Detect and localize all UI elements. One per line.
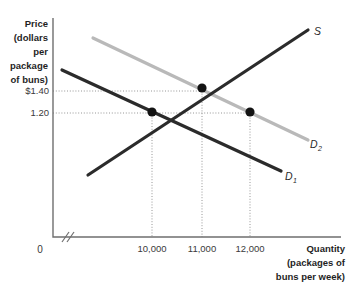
y-axis-title-line-2: (dollars	[14, 32, 48, 43]
chart-axes	[53, 18, 341, 237]
chart-svg: $1.40 1.20 10,000 11,000 12,000 0 Price …	[0, 0, 349, 292]
point-equilibrium-2	[197, 83, 206, 92]
curve-label-demand-1-subscript: 1	[293, 177, 297, 184]
point-quantity-demanded-old-price	[245, 107, 254, 116]
y-axis-title-line-4: package	[10, 60, 48, 71]
x-axis-title-line-2: (packages of	[287, 257, 346, 268]
x-axis-title-line-3: buns per week)	[276, 271, 345, 282]
xtick-label-12000: 12,000	[235, 243, 264, 254]
x-axis-title-line-1: Quantity	[306, 243, 345, 254]
ytick-label-140: $1.40	[25, 85, 49, 96]
y-axis-title-line-1: Price	[25, 18, 48, 29]
y-axis-title-line-3: per	[33, 46, 48, 57]
point-equilibrium-1	[147, 107, 156, 116]
xtick-label-10000: 10,000	[137, 243, 166, 254]
curve-label-demand-2: D	[310, 138, 318, 150]
curve-label-demand-1: D	[285, 170, 293, 182]
supply-demand-chart: $1.40 1.20 10,000 11,000 12,000 0 Price …	[0, 0, 349, 292]
curve-label-demand-2-subscript: 2	[317, 145, 322, 152]
xtick-label-11000: 11,000	[188, 243, 216, 254]
origin-label: 0	[37, 244, 43, 255]
curve-label-supply: S	[314, 25, 321, 37]
y-axis-title-line-5: of buns)	[11, 74, 48, 85]
ytick-label-120: 1.20	[31, 107, 50, 118]
